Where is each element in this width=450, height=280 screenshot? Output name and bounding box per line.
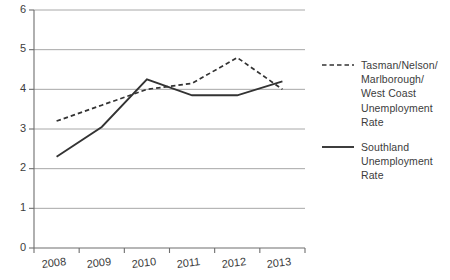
x-axis-ticks-group	[34, 248, 305, 253]
gridlines-group	[34, 10, 305, 208]
legend-item-tasman-nelson-marlborough-west-coast[interactable]: Tasman/Nelson/ Marlborough/ West Coast U…	[322, 58, 450, 129]
y-axis-tick-label: 0	[4, 241, 26, 253]
y-axis-tick-label: 6	[4, 3, 26, 15]
legend-item-label: Southland Unemployment Rate	[361, 140, 433, 183]
legend-item-label: Tasman/Nelson/ Marlborough/ West Coast U…	[361, 58, 438, 129]
y-axis-tick-label: 3	[4, 122, 26, 134]
solid-line-swatch-icon	[322, 140, 354, 154]
dashed-line-swatch-icon	[322, 58, 354, 72]
chart-legend: Tasman/Nelson/ Marlborough/ West Coast U…	[322, 58, 450, 194]
y-axis-ticks-group	[29, 10, 34, 248]
y-axis-tick-label: 1	[4, 201, 26, 213]
series-line-2	[57, 79, 283, 156]
unemployment-rate-line-chart: 0123456 200820092010201120122013 Tasman/…	[0, 0, 450, 280]
y-axis-tick-label: 2	[4, 161, 26, 173]
y-axis-tick-label: 4	[4, 82, 26, 94]
legend-item-southland[interactable]: Southland Unemployment Rate	[322, 140, 450, 183]
data-series-group	[57, 58, 283, 157]
y-axis-tick-label: 5	[4, 42, 26, 54]
